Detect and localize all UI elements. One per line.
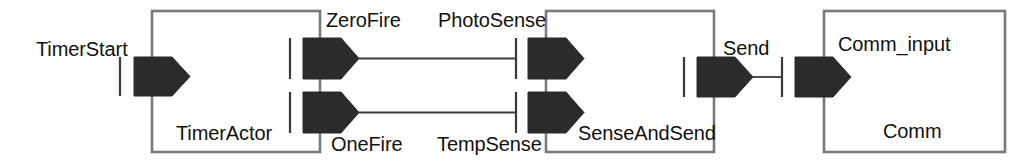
port-label-temp-sense: TempSense	[437, 134, 542, 154]
diagram-canvas: TimerStart TimerActor ZeroFire OneFire P…	[0, 0, 1028, 162]
port-label-comm-input: Comm_input	[838, 34, 950, 54]
port-shape-zero-fire[interactable]	[303, 38, 359, 79]
port-label-send: Send	[723, 38, 769, 58]
port-shape-one-fire[interactable]	[303, 92, 359, 133]
component-label-sense-and-send: SenseAndSend	[578, 123, 716, 143]
port-label-timer-start: TimerStart	[36, 39, 128, 59]
port-label-one-fire: OneFire	[331, 134, 403, 154]
port-label-zero-fire: ZeroFire	[326, 10, 401, 30]
port-shape-send[interactable]	[697, 57, 753, 97]
port-label-photo-sense: PhotoSense	[438, 10, 546, 30]
component-label-timer-actor: TimerActor	[176, 123, 272, 143]
component-label-comm: Comm	[883, 121, 942, 141]
